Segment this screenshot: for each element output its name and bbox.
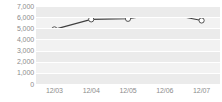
x-axis: 12/0312/0412/0512/0612/07: [36, 87, 220, 99]
y-axis-tick-label: 7,000: [0, 3, 34, 10]
y-axis: 01,0002,0003,0004,0005,0006,0007,000: [0, 0, 34, 102]
y-axis-tick-label: 0: [0, 81, 34, 88]
x-axis-tick-label: 12/03: [34, 87, 74, 95]
plot-band: [36, 6, 220, 17]
y-axis-tick-label: 5,000: [0, 25, 34, 32]
gridline: [36, 28, 220, 29]
gridline: [36, 6, 220, 7]
y-axis-tick-label: 6,000: [0, 14, 34, 21]
plot-band: [36, 28, 220, 39]
x-axis-tick-label: 12/06: [145, 87, 185, 95]
gridline: [36, 62, 220, 63]
plot-band: [36, 51, 220, 62]
y-axis-tick-label: 1,000: [0, 69, 34, 76]
line-chart: 01,0002,0003,0004,0005,0006,0007,000 12/…: [0, 0, 222, 102]
x-axis-tick-label: 12/05: [108, 87, 148, 95]
data-point-marker: [199, 18, 204, 23]
y-axis-tick-label: 3,000: [0, 47, 34, 54]
y-axis-tick-label: 2,000: [0, 58, 34, 65]
gridline: [36, 17, 220, 18]
gridline: [36, 51, 220, 52]
x-axis-tick-label: 12/04: [71, 87, 111, 95]
y-axis-tick-label: 4,000: [0, 36, 34, 43]
plot-band: [36, 73, 220, 84]
gridline: [36, 39, 220, 40]
x-axis-tick-label: 12/07: [182, 87, 222, 95]
plot-area: [36, 6, 220, 84]
gridline: [36, 73, 220, 74]
